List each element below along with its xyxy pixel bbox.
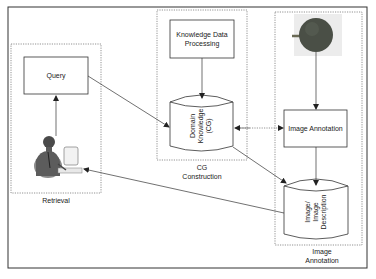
image-annotation-label: Image Annotation <box>288 125 343 133</box>
cg-label-line2: Construction <box>182 173 221 180</box>
image-annotation-region-label-line2: Annotation <box>305 257 339 264</box>
domain-knowledge-line1: Domain <box>189 114 196 138</box>
knowledge-data-processing-node: Knowledge Data Processing <box>170 20 234 58</box>
architecture-diagram: Retrieval CG Construction Image Annotati… <box>0 0 376 279</box>
domain-knowledge-line3: (CG) <box>205 118 213 133</box>
cg-label-line1: CG <box>197 164 208 171</box>
domain-knowledge-line2: Knowledge <box>197 109 205 144</box>
query-node: Query <box>24 57 88 94</box>
retrieval-label: Retrieval <box>42 197 70 204</box>
image-annotation-node: Image Annotation <box>284 110 347 147</box>
image-annotation-region-label-line1: Image <box>312 248 332 256</box>
image-description-line2: Image <box>312 202 320 222</box>
domain-knowledge-store: Domain Knowledge (CG) <box>170 95 233 151</box>
image-description-line3: Description <box>320 194 328 229</box>
image-description-store: Image/ Image Description <box>284 179 348 239</box>
image-description-line1: Image/ <box>304 201 312 222</box>
kdp-line1: Knowledge Data <box>176 31 227 39</box>
fruit-image <box>292 14 342 56</box>
arrow-dk-to-description <box>233 147 286 183</box>
query-label: Query <box>46 72 66 80</box>
user-at-computer-icon <box>34 136 82 178</box>
kdp-line2: Processing <box>185 40 220 48</box>
